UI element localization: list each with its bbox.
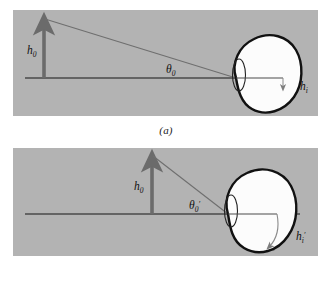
caption-a: (a) — [0, 124, 332, 136]
eyeball-outline-a — [235, 35, 302, 112]
panel-b: h0 θ0′ hi′ (b) — [0, 143, 332, 287]
eye-angular-size-figure: h0 θ0 hi (a) — [0, 0, 332, 287]
panel-b-diagram: h0 θ0′ hi′ — [0, 143, 332, 287]
panel-a: h0 θ0 hi (a) — [0, 0, 332, 143]
panel-a-diagram: h0 θ0 hi — [0, 0, 332, 143]
